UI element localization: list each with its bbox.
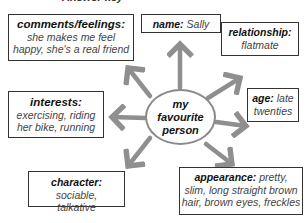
comments-box: comments/feelings: she makes me feel hap… xyxy=(8,14,134,61)
age-value-2: twenties xyxy=(254,105,293,117)
age-label: age: xyxy=(252,92,274,104)
character-text-1: sociable, xyxy=(56,189,97,201)
interests-box: interests: exercising, riding her bike, … xyxy=(8,91,104,138)
interests-label: interests: xyxy=(30,96,82,108)
relationship-value: flatmate xyxy=(241,39,278,51)
name-box: name: Sally xyxy=(141,14,221,33)
character-label: character: xyxy=(51,176,102,188)
appearance-text-1: pretty, xyxy=(259,171,287,183)
name-value: Sally xyxy=(187,18,210,30)
interests-text-2: her bike, running xyxy=(17,121,95,133)
interests-text-1: exercising, riding xyxy=(17,109,96,121)
arrow-to-age xyxy=(216,122,246,126)
age-value-1: late xyxy=(277,92,294,104)
comments-label: comments/feelings: xyxy=(17,18,125,30)
arrow-to-comments xyxy=(128,68,150,96)
hub-line-2: favourite xyxy=(157,111,203,124)
relationship-label: relationship: xyxy=(228,26,291,38)
appearance-text-3: hair, brown eyes, freckles xyxy=(182,196,300,208)
age-box: age: late twenties xyxy=(247,88,299,122)
name-label: name: xyxy=(153,18,184,30)
arrow-to-character xyxy=(128,138,150,166)
arrow-to-relationship xyxy=(208,78,240,98)
character-text-2: talkative xyxy=(57,201,96,213)
hub-line-1: my xyxy=(173,98,189,111)
arrow-to-appearance xyxy=(206,144,232,164)
comments-text-1: she makes me feel xyxy=(27,31,115,43)
hub-line-3: person xyxy=(162,124,199,137)
comments-text-2: happy, she's a real friend xyxy=(13,43,129,55)
arrow-to-interests xyxy=(112,117,146,118)
appearance-text-2: slim, long straight brown xyxy=(184,184,297,196)
central-hub: my favourite person xyxy=(145,89,216,145)
appearance-label: appearance: xyxy=(194,171,256,183)
character-box: character: sociable, talkative xyxy=(28,171,125,207)
relationship-box: relationship: flatmate xyxy=(221,22,299,56)
appearance-box: appearance: pretty, slim, long straight … xyxy=(179,167,303,215)
